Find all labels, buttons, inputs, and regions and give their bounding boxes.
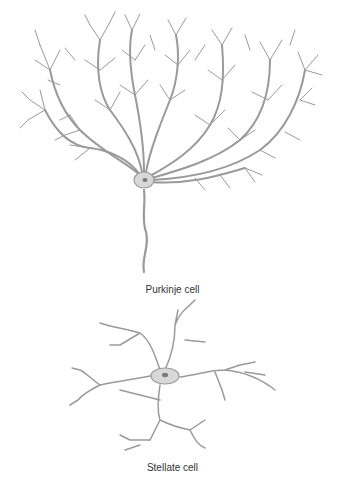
stellate-cell-drawing [70, 300, 275, 450]
purkinje-nucleus [143, 178, 148, 182]
purkinje-cell-drawing [0, 0, 345, 489]
stellate-cell-label: Stellate cell [0, 462, 345, 473]
stellate-nucleus [162, 373, 168, 377]
neuron-figure: Purkinje cell Stellate cell [0, 0, 345, 489]
purkinje-cell-label: Purkinje cell [0, 284, 345, 295]
